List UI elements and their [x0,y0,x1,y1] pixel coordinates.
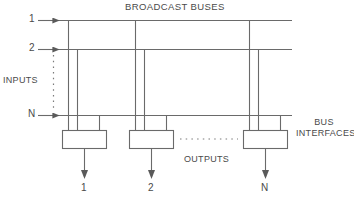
output-label-1: 1 [81,183,87,193]
input-label-n: N [28,109,35,119]
input-label-1: 1 [29,14,35,24]
output-arrowhead-1 [81,170,88,179]
bus-interfaces-label-line2: INTERFACES [296,129,352,138]
bus-interface-box-n[interactable] [244,131,288,149]
output-arrowhead-2 [148,170,155,179]
figure-title: BROADCAST BUSES [125,2,225,12]
output-arrows [85,149,266,178]
bus-interfaces-label-line1: BUS [296,118,352,127]
output-label-2: 2 [148,183,154,193]
outputs-label: OUTPUTS [184,155,229,164]
input-label-2: 2 [29,43,35,53]
broadcast-bus-diagram [0,0,354,198]
bus-interface-box-2[interactable] [130,131,174,149]
output-arrowheads [81,170,269,179]
output-arrowhead-n [262,170,269,179]
input-feed-arrows [38,21,59,116]
inputs-label: INPUTS [3,76,38,85]
bus-interface-box-1[interactable] [63,131,107,149]
output-label-n: N [261,183,268,193]
figure-canvas: BROADCAST BUSES 1 2 N INPUTS OUTPUTS BUS… [0,0,354,198]
bus-interface-boxes [63,131,288,149]
broadcast-bus-lines [58,21,292,116]
bus-tap-lines [69,21,281,131]
